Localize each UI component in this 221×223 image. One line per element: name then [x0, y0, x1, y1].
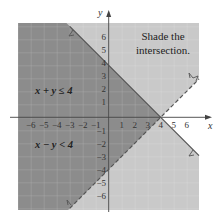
svg-text:−2: −2 [78, 120, 88, 130]
svg-text:6: 6 [184, 120, 189, 130]
y-axis-label: y [97, 7, 103, 18]
x-axis-label: x [207, 120, 213, 131]
svg-text:−6: −6 [26, 120, 36, 130]
svg-text:3: 3 [102, 71, 107, 81]
inequality-1-label: x + y ≤ 4 [34, 85, 72, 96]
inequality-2-label: x − y < 4 [34, 139, 73, 150]
svg-text:−5: −5 [39, 120, 49, 130]
svg-text:4: 4 [158, 120, 163, 130]
svg-text:3: 3 [145, 120, 150, 130]
svg-text:1: 1 [102, 97, 107, 107]
svg-text:2: 2 [102, 84, 107, 94]
svg-text:−6: −6 [96, 191, 106, 201]
svg-text:6: 6 [102, 32, 107, 42]
svg-text:2: 2 [132, 120, 137, 130]
svg-text:−5: −5 [96, 178, 106, 188]
svg-text:−3: −3 [96, 152, 106, 162]
graph: −6 −5 −4 −3 −2 −1 1 2 3 4 5 6 6 5 4 3 2 … [0, 0, 221, 223]
svg-text:5: 5 [102, 45, 107, 55]
svg-text:−1: −1 [96, 126, 106, 136]
instruction-line-1: Shade the [141, 30, 184, 42]
y-axis-arrow-icon [106, 10, 111, 17]
svg-text:−3: −3 [65, 120, 75, 130]
svg-text:−4: −4 [52, 120, 62, 130]
svg-text:1: 1 [119, 120, 124, 130]
svg-text:−4: −4 [96, 165, 106, 175]
svg-text:5: 5 [171, 120, 176, 130]
svg-text:4: 4 [102, 58, 107, 68]
instruction-line-2: intersection. [136, 44, 190, 56]
svg-text:−2: −2 [96, 139, 106, 149]
